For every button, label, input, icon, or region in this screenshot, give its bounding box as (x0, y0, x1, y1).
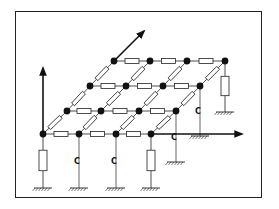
grid-node (76, 131, 83, 138)
grid-node (111, 58, 118, 65)
grid-node (98, 108, 105, 115)
grid-node (222, 58, 229, 65)
grid-node (197, 83, 204, 90)
grid-resistors (43, 59, 225, 137)
depth-axis (114, 31, 144, 61)
resistor (43, 111, 67, 134)
resistor (90, 61, 114, 86)
resistor (163, 84, 200, 89)
ground-symbol (141, 188, 161, 191)
resistor (79, 132, 116, 137)
ground-symbol (215, 112, 235, 115)
ground-branch-resistor (33, 134, 53, 191)
resistor (126, 61, 150, 86)
resistor (139, 109, 176, 114)
grid-node (64, 108, 71, 115)
ground-branch-capacitor: C (106, 134, 126, 191)
resistor (126, 84, 163, 89)
capacitor-label: C (111, 157, 117, 166)
grid-node (148, 131, 155, 138)
resistor (90, 84, 126, 89)
capacitor-label: C (195, 107, 201, 116)
resistor (67, 86, 90, 111)
capacitor-label: C (74, 157, 80, 166)
resistor (114, 59, 150, 64)
resistor (187, 59, 225, 64)
resistor (163, 61, 187, 86)
ground-symbol (33, 188, 53, 191)
grid-node (87, 83, 94, 90)
resistor (43, 132, 79, 137)
resistor (151, 111, 176, 134)
grid-node (173, 108, 180, 115)
grid-node (123, 83, 130, 90)
ground-branch-resistor (141, 134, 161, 191)
grid-node (136, 108, 143, 115)
ground-symbol (69, 188, 89, 191)
ground-symbol (166, 162, 186, 165)
resistor (147, 150, 155, 171)
grid-node (160, 83, 167, 90)
resistor (139, 86, 163, 111)
ground-branch-capacitor: C (69, 134, 89, 191)
ground-symbol (106, 188, 126, 191)
resistor (150, 59, 187, 64)
grid-node (184, 58, 191, 65)
resistor (221, 76, 229, 95)
ground-symbol (190, 136, 210, 139)
grid-node (40, 131, 47, 138)
resistor (101, 109, 139, 114)
resistor (116, 132, 151, 137)
resistor (67, 109, 101, 114)
resistor (116, 111, 139, 134)
grid-node (113, 131, 120, 138)
axes (43, 31, 242, 134)
grid-node (147, 58, 154, 65)
resistor (101, 86, 126, 111)
resistor (39, 150, 47, 171)
rc-grid-diagram: CCCC (0, 0, 279, 209)
resistor (79, 111, 101, 134)
